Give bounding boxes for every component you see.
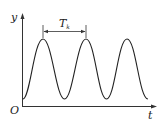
y-axis-label: y — [10, 11, 18, 24]
x-axis-arrow-icon — [151, 105, 157, 109]
axes — [21, 13, 158, 109]
y-axis-arrow-icon — [21, 13, 25, 19]
period-label: Tk — [59, 17, 70, 30]
period-arrow-left-icon — [44, 30, 49, 33]
period-arrow-right-icon — [81, 30, 86, 33]
waveform-curve — [23, 39, 148, 99]
x-axis-label: t — [148, 109, 153, 122]
origin-label: O — [10, 104, 19, 117]
waveform-diagram: Tk y O t — [0, 0, 168, 126]
